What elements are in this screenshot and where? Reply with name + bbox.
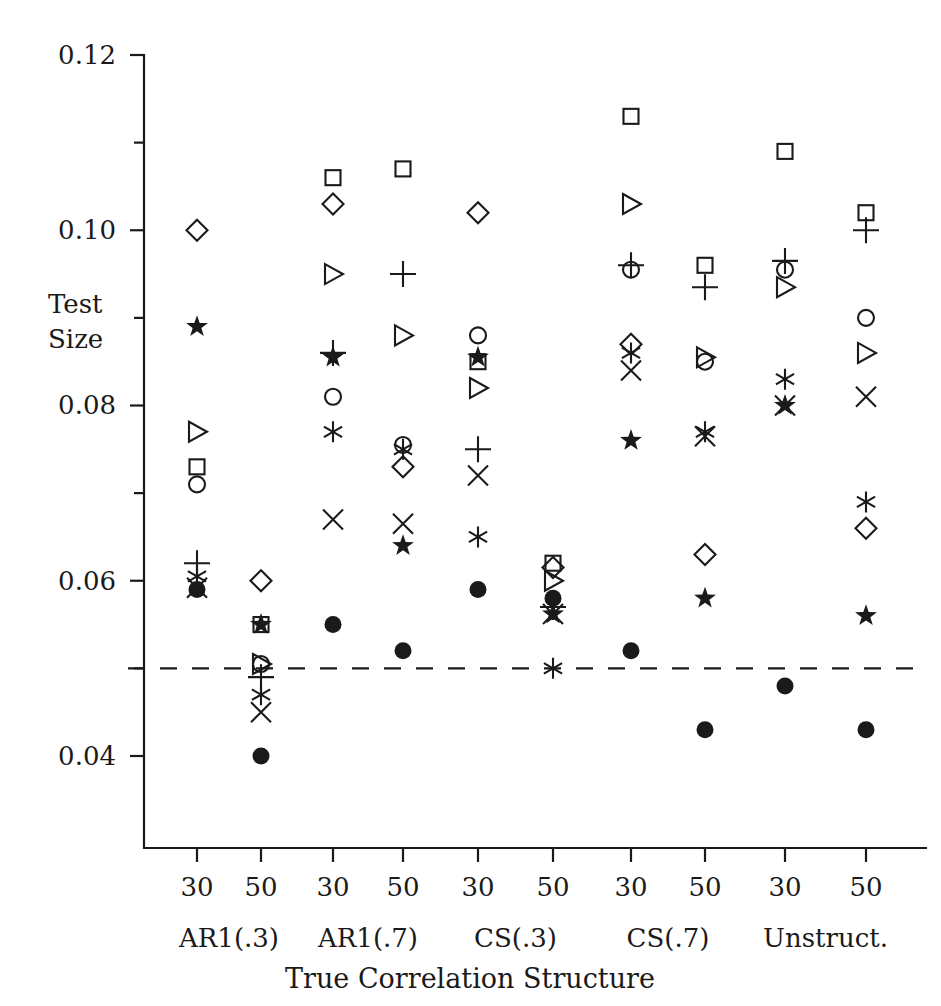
x-axis-tick-label: 50 bbox=[688, 872, 721, 902]
marker-cross bbox=[393, 514, 413, 534]
marker-plus bbox=[465, 436, 491, 462]
marker-filled-circle bbox=[253, 747, 270, 764]
marker-square bbox=[778, 144, 793, 159]
marker-cross bbox=[856, 387, 876, 407]
marker-circle bbox=[325, 389, 341, 405]
x-axis-group-label: AR1(.7) bbox=[317, 923, 418, 953]
x-axis-tick-label: 30 bbox=[316, 872, 349, 902]
marker-asterisk bbox=[469, 526, 487, 547]
marker-triangle-right bbox=[189, 422, 207, 442]
y-axis-title: Test Size bbox=[48, 289, 103, 354]
marker-asterisk bbox=[622, 342, 640, 363]
marker-square bbox=[326, 170, 341, 185]
scatter-plot-figure: Test Size 0.120.100.080.060.04 305030503… bbox=[0, 0, 941, 1006]
marker-square bbox=[190, 459, 205, 474]
x-axis-group-label: CS(.3) bbox=[474, 923, 557, 953]
marker-plus bbox=[692, 274, 718, 300]
x-axis-tick-label: 30 bbox=[768, 872, 801, 902]
marker-square bbox=[624, 109, 639, 124]
marker-filled-circle bbox=[545, 590, 562, 607]
marker-cross bbox=[468, 466, 488, 486]
y-axis-ticks bbox=[130, 55, 144, 756]
marker-star bbox=[392, 534, 414, 555]
marker-filled-circle bbox=[325, 616, 342, 633]
y-axis-title-line-1: Test bbox=[48, 289, 103, 319]
x-axis-group-label: AR1(.3) bbox=[178, 923, 279, 953]
y-axis-title-line-2: Size bbox=[48, 324, 103, 354]
x-axis-tick-label: 50 bbox=[244, 872, 277, 902]
marker-filled-circle bbox=[697, 721, 714, 738]
marker-diamond bbox=[187, 220, 208, 241]
marker-asterisk bbox=[252, 684, 270, 705]
marker-cross bbox=[251, 702, 271, 722]
x-axis-group-label: CS(.7) bbox=[627, 923, 710, 953]
marker-star bbox=[855, 604, 877, 625]
marker-cross bbox=[323, 509, 343, 529]
marker-filled-circle bbox=[470, 581, 487, 598]
y-axis-tick-labels: 0.120.100.080.060.04 bbox=[58, 40, 116, 771]
marker-star bbox=[186, 315, 208, 336]
marker-plus bbox=[618, 252, 644, 278]
x-axis-tick-label: 30 bbox=[180, 872, 213, 902]
marker-triangle-right bbox=[777, 277, 795, 297]
marker-asterisk bbox=[776, 369, 794, 390]
marker-diamond bbox=[695, 544, 716, 565]
marker-circle bbox=[858, 310, 874, 326]
x-axis-tick-labels: 30503050305030503050 bbox=[180, 872, 882, 902]
marker-asterisk bbox=[696, 421, 714, 442]
data-markers bbox=[184, 109, 879, 765]
axis-group bbox=[130, 55, 926, 862]
y-axis-tick-label: 0.06 bbox=[58, 566, 116, 596]
marker-filled-circle bbox=[858, 721, 875, 738]
marker-asterisk bbox=[324, 421, 342, 442]
marker-cross bbox=[621, 360, 641, 380]
marker-diamond bbox=[856, 518, 877, 539]
x-axis-tick-label: 50 bbox=[849, 872, 882, 902]
marker-plus bbox=[772, 248, 798, 274]
x-axis-tick-label: 50 bbox=[536, 872, 569, 902]
marker-triangle-right bbox=[395, 325, 413, 345]
marker-circle bbox=[189, 476, 205, 492]
marker-diamond bbox=[251, 570, 272, 591]
x-axis-group-label: Unstruct. bbox=[763, 923, 888, 953]
marker-filled-circle bbox=[623, 642, 640, 659]
marker-triangle-right bbox=[623, 194, 641, 214]
marker-triangle-right bbox=[470, 378, 488, 398]
marker-filled-circle bbox=[777, 677, 794, 694]
x-axis-title: True Correlation Structure bbox=[285, 963, 655, 994]
marker-plus bbox=[390, 261, 416, 287]
x-axis-group-labels: AR1(.3)AR1(.7)CS(.3)CS(.7)Unstruct. bbox=[178, 923, 888, 953]
marker-circle bbox=[470, 327, 486, 343]
marker-filled-circle bbox=[395, 642, 412, 659]
marker-asterisk bbox=[857, 491, 875, 512]
axis-frame bbox=[144, 55, 926, 848]
marker-triangle-right bbox=[858, 343, 876, 363]
marker-square bbox=[698, 258, 713, 273]
y-axis-tick-label: 0.12 bbox=[58, 40, 116, 70]
marker-square bbox=[396, 161, 411, 176]
y-axis-tick-label: 0.08 bbox=[58, 390, 116, 420]
x-axis-ticks bbox=[197, 848, 866, 862]
marker-filled-circle bbox=[189, 581, 206, 598]
y-axis-tick-label: 0.10 bbox=[58, 215, 116, 245]
marker-diamond bbox=[323, 193, 344, 214]
marker-plus bbox=[853, 217, 879, 243]
plot-canvas: Test Size 0.120.100.080.060.04 305030503… bbox=[0, 0, 941, 1006]
x-axis-tick-label: 30 bbox=[614, 872, 647, 902]
x-axis-tick-label: 30 bbox=[461, 872, 494, 902]
y-axis-tick-label: 0.04 bbox=[58, 741, 116, 771]
marker-star bbox=[694, 587, 716, 608]
marker-star bbox=[620, 429, 642, 450]
marker-diamond bbox=[468, 202, 489, 223]
x-axis-tick-label: 50 bbox=[386, 872, 419, 902]
marker-triangle-right bbox=[325, 264, 343, 284]
